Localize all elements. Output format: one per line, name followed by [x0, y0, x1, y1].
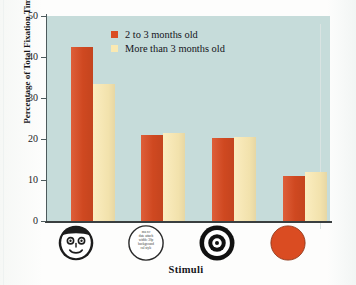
chart-legend: 2 to 3 months old More than 3 months old: [111, 27, 225, 55]
x-category-3: [265, 224, 311, 262]
y-axis-title: Percentage of Total Fixation Time: [22, 0, 32, 149]
scrambled-text-circle-stimulus-icon: ma 89date attachwidth: 30pbackgroundcal …: [127, 224, 165, 262]
y-tick-label: 20: [16, 133, 38, 144]
y-tick-mark: [41, 98, 46, 99]
bar: [163, 133, 185, 221]
scrambled-text-content: ma 89date attachwidth: 30pbackgroundcal …: [131, 231, 161, 256]
x-category-0: [53, 224, 99, 262]
y-tick-label: 0: [16, 215, 38, 226]
bar: [141, 135, 163, 221]
y-tick-mark: [41, 221, 46, 222]
legend-swatch-series-1: [111, 45, 118, 52]
y-tick-label: 10: [16, 174, 38, 185]
bar: [305, 172, 327, 221]
scan-edge-line-left: [3, 0, 4, 285]
bar: [283, 176, 305, 221]
y-tick-mark: [41, 180, 46, 181]
bullseye-stimulus-icon: [198, 224, 236, 262]
x-axis-title-wrap: Stimuli: [0, 264, 356, 275]
legend-label-series-0: 2 to 3 months old: [125, 29, 198, 40]
smiling-face-stimulus-icon: [57, 224, 95, 262]
bar: [71, 47, 93, 221]
x-category-1: ma 89date attachwidth: 30pbackgroundcal …: [123, 224, 169, 262]
y-tick-label: 50: [16, 10, 38, 21]
bar-group: [283, 16, 327, 221]
y-tick-mark: [41, 16, 46, 17]
x-category-2: [194, 224, 240, 262]
y-axis-line: [46, 14, 48, 223]
legend-swatch-series-0: [111, 31, 118, 38]
bar-group: [71, 16, 115, 221]
x-axis-line: [45, 221, 332, 223]
bar: [93, 84, 115, 221]
scrambled-text-line: cal style: [131, 247, 161, 251]
chart-screenshot: Percentage of Total Fixation Time 010203…: [0, 0, 356, 285]
legend-entry: 2 to 3 months old: [111, 27, 225, 41]
legend-label-series-1: More than 3 months old: [125, 43, 225, 54]
solid-orange-circle-stimulus-icon: [269, 224, 307, 262]
legend-entry: More than 3 months old: [111, 41, 225, 55]
y-tick-mark: [41, 139, 46, 140]
x-axis-category-icons: ma 89date attachwidth: 30pbackgroundcal …: [47, 224, 330, 264]
y-tick-label: 30: [16, 92, 38, 103]
y-tick-mark: [41, 57, 46, 58]
y-tick-label: 40: [16, 51, 38, 62]
x-axis-title: Stimuli: [153, 264, 204, 275]
bar: [212, 138, 234, 221]
bar: [234, 137, 256, 221]
